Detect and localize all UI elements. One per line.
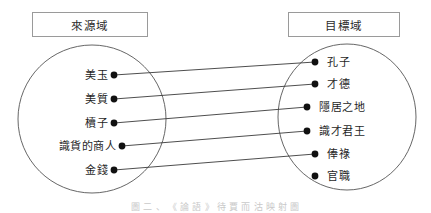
- mapping-line-5: [114, 154, 315, 170]
- target-node-label-6: 官職: [327, 171, 350, 182]
- mapping-line-1: [114, 62, 315, 75]
- target-node-label-4: 識才君王: [319, 126, 365, 137]
- target-domain-title-box: 目標域: [288, 12, 400, 37]
- figure-caption: 圖 二 、 《 論 語 》 待 賈 而 沽 映 射 圖: [0, 200, 431, 213]
- target-node-label-3: 隱居之地: [319, 102, 365, 113]
- domain-ellipses: [18, 44, 416, 193]
- source-node-label-4: 識貨的商人: [59, 141, 117, 152]
- target-node-dot-2: [312, 81, 319, 88]
- source-domain-title-box: 來源域: [32, 12, 148, 37]
- source-node-label-3: 櫝子: [85, 118, 108, 129]
- mapping-diagram: 來源域 目標域 美玉美質櫝子識貨的商人金錢 孔子才德隱居之地識才君王俸祿官職 圖…: [0, 0, 431, 213]
- target-domain-title: 目標域: [325, 17, 363, 33]
- source-node-label-1: 美玉: [85, 70, 108, 81]
- target-node-dot-3: [304, 104, 311, 111]
- target-node-dot-4: [304, 128, 311, 135]
- source-node-dot-3: [111, 120, 118, 127]
- target-node-label-5: 俸祿: [327, 149, 350, 160]
- target-node-dot-1: [312, 59, 319, 66]
- source-node-label-2: 美質: [85, 94, 108, 105]
- target-node-dot-6: [312, 173, 319, 180]
- source-node-dot-5: [111, 167, 118, 174]
- target-node-label-1: 孔子: [327, 57, 350, 68]
- source-node-dot-4: [119, 143, 126, 150]
- mapping-lines: [114, 62, 315, 170]
- node-dots: [111, 59, 319, 180]
- source-domain-title: 來源域: [71, 17, 109, 33]
- target-node-label-2: 才德: [327, 79, 350, 90]
- mapping-line-2: [114, 84, 315, 99]
- target-node-dot-5: [312, 151, 319, 158]
- mapping-line-4: [122, 131, 307, 146]
- source-node-dot-2: [111, 96, 118, 103]
- source-node-label-5: 金錢: [85, 165, 108, 176]
- source-node-dot-1: [111, 72, 118, 79]
